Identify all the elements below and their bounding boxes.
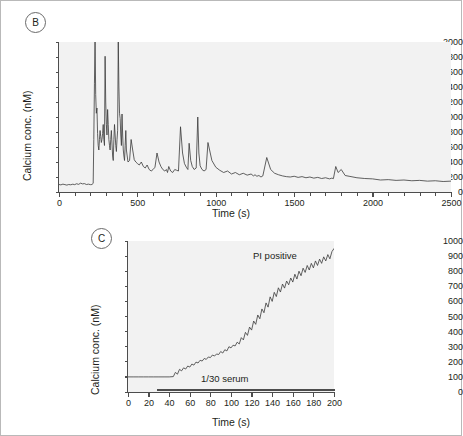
x-tick-mark [451, 193, 452, 197]
panel-c-badge: C [91, 228, 112, 249]
y-tick-label: 0 [344, 388, 463, 397]
panel-b-xlabel: Time (s) [196, 207, 266, 219]
panel-b-badge: B [25, 12, 46, 33]
x-tick-mark [272, 393, 273, 397]
y-tick-label: 200 [344, 357, 463, 366]
serum-treatment-bar [157, 389, 335, 391]
x-tick-mark [59, 193, 60, 197]
y-tick-label: 600 [344, 297, 463, 306]
y-tick-label: 800 [344, 267, 463, 276]
x-tick-label: 120 [244, 399, 259, 408]
x-tick-mark [210, 393, 211, 397]
pi-positive-annotation: PI positive [253, 250, 297, 261]
serum-annotation: 1/30 serum [201, 373, 249, 384]
x-tick-mark [216, 193, 217, 197]
y-tick-label: 900 [344, 252, 463, 261]
panel-c-trace-svg [128, 241, 334, 392]
x-tick-label: 500 [130, 199, 145, 208]
x-tick-label: 200 [327, 399, 342, 408]
y-tick-label: 300 [344, 342, 463, 351]
panel-b-label: B [32, 17, 39, 28]
x-tick-mark [334, 393, 335, 397]
x-tick-label: 140 [265, 399, 280, 408]
x-tick-mark [293, 393, 294, 397]
x-tick-label: 2000 [363, 199, 383, 208]
panel-c-plot-area [128, 241, 334, 392]
x-tick-mark [148, 393, 149, 397]
x-tick-mark [313, 393, 314, 397]
panel-c-xlabel: Time (s) [196, 416, 266, 428]
x-tick-mark [169, 393, 170, 397]
panel-c-calcium-trace [128, 249, 334, 377]
panel-b: B Calcium conc. (nM) 0200400600800100012… [1, 1, 463, 223]
y-tick-label: 100 [344, 372, 463, 381]
x-tick-label: 100 [224, 399, 239, 408]
panel-c: C Calcium conc. (nM) 0100200300400500600… [1, 223, 463, 436]
x-tick-mark [137, 193, 138, 197]
y-tick-label: 400 [344, 327, 463, 336]
x-tick-label: 40 [165, 399, 175, 408]
x-tick-label: 2500 [441, 199, 461, 208]
x-tick-label: 1500 [285, 199, 305, 208]
x-tick-label: 160 [286, 399, 301, 408]
x-tick-label: 0 [126, 399, 131, 408]
panel-b-trace-svg [59, 42, 451, 192]
panel-b-ylabel: Calcium conc. (nM) [21, 91, 33, 181]
panel-c-ylabel: Calcium conc. (nM) [89, 305, 101, 395]
x-tick-mark [294, 193, 295, 197]
panel-b-x-axis [58, 192, 452, 193]
y-tick-label: 500 [344, 312, 463, 321]
x-tick-mark [251, 393, 252, 397]
x-tick-label: 20 [144, 399, 154, 408]
x-tick-label: 0 [57, 199, 62, 208]
x-tick-label: 80 [206, 399, 216, 408]
x-tick-label: 180 [306, 399, 321, 408]
x-tick-mark [372, 193, 373, 197]
x-tick-mark [190, 393, 191, 397]
x-tick-label: 60 [185, 399, 195, 408]
panel-b-plot-area [59, 42, 451, 192]
panel-c-label: C [98, 233, 105, 244]
panel-c-x-axis [127, 392, 335, 393]
x-tick-mark [128, 393, 129, 397]
panel-b-calcium-trace [59, 42, 451, 185]
x-tick-mark [231, 393, 232, 397]
y-tick-label: 700 [344, 282, 463, 291]
y-tick-label: 1000 [344, 237, 463, 246]
